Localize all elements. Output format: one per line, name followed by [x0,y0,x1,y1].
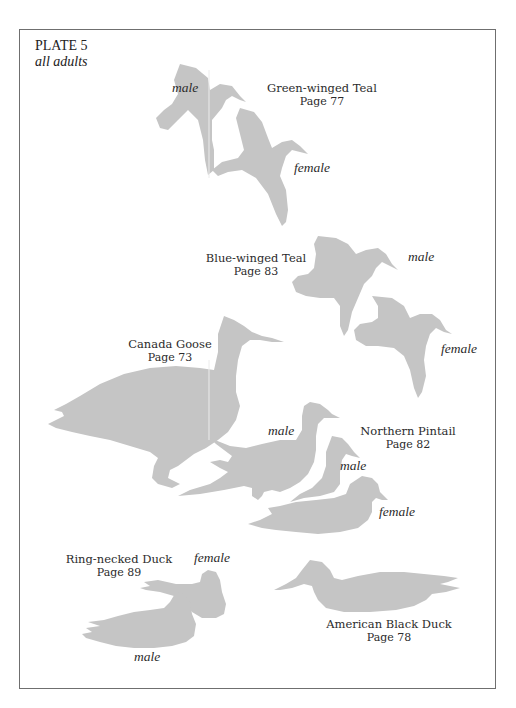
species-page: Page 83 [201,265,311,279]
label-northern-pintail-male: male [268,424,294,438]
label-ring-necked-duck-male: male [134,650,160,664]
label-blue-winged-teal-female: female [441,342,477,356]
species-name: Northern Pintail [360,424,456,438]
label-northern-pintail-female: female [379,505,415,519]
american-black-duck-silhouette [274,560,460,612]
label-green-winged-teal-male: male [172,81,198,95]
species-name: Green-winged Teal [267,81,377,95]
label-green-winged-teal-female: female [294,161,330,175]
species-green-winged-teal: Green-winged Teal Page 77 [256,81,388,109]
species-page: Page 77 [256,95,388,109]
species-blue-winged-teal: Blue-winged Teal Page 83 [201,251,311,279]
ring-necked-duck-male-silhouette [82,592,196,648]
species-american-black-duck: American Black Duck Page 78 [326,617,452,645]
species-canada-goose: Canada Goose Page 73 [124,337,216,365]
label-northern-pintail-male-2: male [340,459,366,473]
blue-winged-teal-female-silhouette [354,296,452,398]
green-winged-teal-male-silhouette [156,64,246,175]
label-ring-necked-duck-female: female [194,551,230,565]
species-page: Page 82 [358,438,458,452]
species-name: Ring-necked Duck [66,552,172,566]
label-blue-winged-teal-male: male [408,250,434,264]
species-name: Canada Goose [128,337,212,351]
species-ring-necked-duck: Ring-necked Duck Page 89 [64,552,174,580]
species-page: Page 78 [326,631,452,645]
species-page: Page 89 [64,566,174,580]
species-name: American Black Duck [326,617,452,631]
species-name: Blue-winged Teal [206,251,306,265]
species-northern-pintail: Northern Pintail Page 82 [358,424,458,452]
species-page: Page 73 [124,351,216,365]
